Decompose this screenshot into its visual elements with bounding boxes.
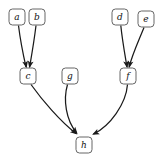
node-b[interactable]: b [29,9,45,25]
edge-line [30,26,36,68]
node-label-g: g [67,71,73,81]
edge-line [129,28,144,68]
edge-f-h [91,85,128,138]
node-label-d: d [117,12,123,22]
node-label-b: b [34,12,40,22]
nodes-layer: abcdefgh [9,9,154,153]
node-a[interactable]: a [9,9,25,25]
node-label-h: h [81,140,87,150]
edge-line [121,26,127,68]
node-d[interactable]: d [112,9,128,25]
edge-g-h [65,85,79,136]
edge-line [94,85,128,135]
diagram-canvas: abcdefgh [0,0,163,160]
edge-b-c [26,26,36,69]
arrowhead-icon [71,127,80,136]
arrowhead-icon [91,129,100,137]
edge-c-h [31,85,79,137]
node-label-c: c [25,71,30,81]
node-g[interactable]: g [62,68,78,84]
edge-line [31,85,76,134]
edge-a-c [19,26,30,69]
node-label-e: e [143,14,148,24]
node-e[interactable]: e [138,11,154,27]
node-f[interactable]: f [120,68,136,84]
node-h[interactable]: h [76,137,92,153]
graph-svg: abcdefgh [0,0,163,160]
edge-e-f [126,28,144,69]
node-c[interactable]: c [20,68,36,84]
edge-line [19,26,27,68]
node-label-a: a [14,12,19,22]
